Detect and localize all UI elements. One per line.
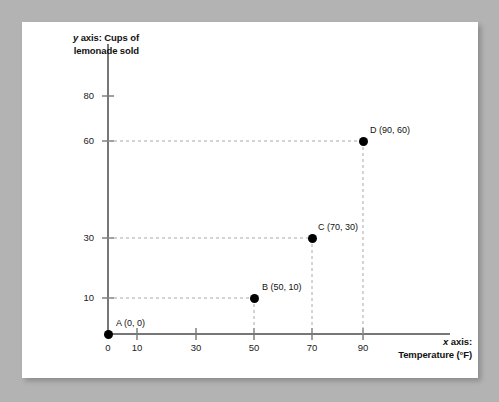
x-axis-title-line1: axis:: [448, 336, 472, 347]
y-axis-title-line1: axis: Cups of: [78, 32, 139, 43]
x-tick-label-70: 70: [297, 342, 327, 353]
y-tick-label-10: 10: [64, 292, 94, 303]
data-point-c[interactable]: [308, 234, 317, 243]
chart-card: y axis: Cups of lemonade sold x axis: Te…: [22, 22, 478, 378]
x-tick-label-0: 0: [93, 342, 123, 353]
x-tick-label-90: 90: [348, 342, 378, 353]
x-tick-label-30: 30: [181, 342, 211, 353]
y-axis-title: y axis: Cups of lemonade sold: [39, 32, 139, 57]
y-axis-title-line2: lemonade sold: [74, 45, 139, 56]
y-tick-label-30: 30: [64, 232, 94, 243]
data-point-label-a: A (0, 0): [116, 318, 145, 328]
data-point-b[interactable]: [250, 294, 259, 303]
x-tick-label-50: 50: [239, 342, 269, 353]
data-point-a[interactable]: [104, 330, 113, 339]
x-tick-label-10: 10: [122, 342, 152, 353]
x-axis-title-line2: Temperature (°F): [398, 349, 472, 360]
data-point-label-d: D (90, 60): [370, 125, 410, 135]
scatter-plot: [22, 22, 478, 378]
y-tick-label-80: 80: [64, 90, 94, 101]
data-point-label-b: B (50, 10): [262, 282, 302, 292]
data-point-d[interactable]: [359, 137, 368, 146]
y-tick-label-60: 60: [64, 135, 94, 146]
data-point-label-c: C (70, 30): [318, 222, 358, 232]
